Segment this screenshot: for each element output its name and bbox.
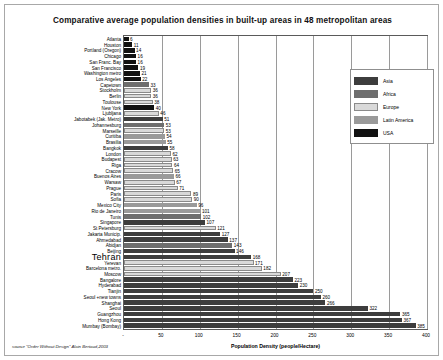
bar [124,71,140,76]
category-label: Curitiba [105,134,121,139]
value-label: 367 [402,317,411,322]
category-label: Washington metro [84,71,121,76]
value-label: 54 [165,134,172,139]
legend-item: Latin America [354,113,430,126]
x-tick-label: 100 [195,333,203,338]
value-label: 127 [220,231,229,236]
category-label: Los Angeles [96,77,121,82]
bar [124,140,166,145]
category-label: London [106,151,121,156]
value-label: 36 [151,94,158,99]
category-label: Rio de Janeiro [91,208,121,213]
value-label: 16 [136,59,143,64]
bar [124,266,262,271]
value-label: 65 [173,168,180,173]
bar [124,318,402,323]
bar-row: Mumbay (Bombay)385 [124,323,427,329]
legend-label: Europe [383,104,399,110]
legend-swatch [354,129,378,137]
bar [124,82,149,87]
value-label: 137 [228,237,237,242]
value-label: 146 [235,249,244,254]
value-label: 266 [325,300,334,305]
bar [124,306,368,311]
value-label: 11 [132,42,138,47]
value-label: 46 [159,111,166,116]
legend-item: Asia [354,74,430,87]
category-label: Seoul +new towns [84,294,121,299]
bar [124,312,400,317]
bar [124,255,251,260]
bar [124,283,298,288]
bar [124,191,191,196]
legend-swatch [354,77,378,85]
category-label: Riga [112,163,121,168]
category-label: Barcelona metro. [86,266,121,271]
value-label: 14 [135,48,142,53]
category-label: San Francisco [92,65,121,70]
category-label: Shanghai [102,300,121,305]
category-label: Prague [106,185,121,190]
bar [124,300,325,305]
bar [124,203,197,208]
value-label: 102 [201,214,210,219]
bar [124,60,136,65]
category-label: Abidjan [106,243,121,248]
bar [124,88,151,93]
category-label: Atlanta [107,36,121,41]
category-label: New York [102,105,121,110]
bar [124,128,164,133]
legend-item: Africa [354,87,430,100]
value-label: 38 [153,99,160,104]
category-label: Cracow [105,168,121,173]
bar [124,237,228,242]
value-label: 58 [168,145,175,150]
bar [124,226,216,231]
value-label: 207 [281,271,290,276]
value-label: 33 [149,82,156,87]
legend-swatch [354,103,378,111]
category-label: St Petersburg [93,226,121,231]
bar [124,134,165,139]
category-label: Sofia [111,197,121,202]
value-label: 365 [400,312,409,317]
x-tick-label: - [122,333,124,338]
value-label: 55 [166,140,173,145]
x-tick-label: 150 [233,333,241,338]
value-label: 182 [262,266,271,271]
x-axis-title: Population Density (people/Hectare) [123,343,428,349]
bar [124,94,151,99]
bar [124,123,164,128]
bar [124,220,205,225]
legend: AsiaAfricaEuropeLatin AmericaUSA [350,69,434,144]
legend-label: Africa [383,91,396,97]
bar [124,163,172,168]
bar [124,209,201,214]
category-label: Brasilia [106,140,121,145]
category-label: Houston [104,42,121,47]
value-label: 66 [174,174,181,179]
bar [124,65,138,70]
chart-frame: Comparative average population densities… [4,4,439,356]
bar [124,295,321,300]
category-label: Yerevan [104,260,121,265]
bar [124,232,220,237]
category-label: Berlin [109,94,121,99]
value-label: 64 [172,163,179,168]
value-label: 62 [171,151,178,156]
bar [124,111,159,116]
category-label: San Franc. Bay [89,59,121,64]
value-label: 19 [138,65,145,70]
category-label: Mumbay (Bombay) [82,323,121,328]
value-label: 230 [298,283,307,288]
category-label: Stockholm [100,88,121,93]
legend-label: Latin America [383,117,413,123]
category-label: Hong Kong [98,317,121,322]
category-label: Portland (Oregon) [84,48,121,53]
category-label: Capetown [100,82,121,87]
chart-title: Comparative average population densities… [5,16,440,25]
category-label: Jabotabek (Jak. Metro) [74,117,121,122]
bar [124,168,173,173]
category-label: Johannesburg [92,122,121,127]
category-label: Tianjin [108,289,121,294]
